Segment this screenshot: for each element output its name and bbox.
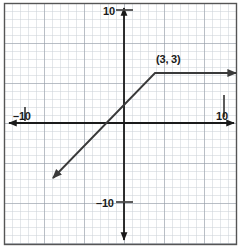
y-axis-label-positive-10: 10 [103,5,115,17]
coordinate-grid-figure: 10 –10 –10 10 (3, 3) [0,0,240,250]
major-gridlines [4,3,237,245]
coordinate-plane-svg [0,0,240,250]
y-axis-label-negative-10: –10 [96,197,114,209]
vertex-point-label: (3, 3) [156,53,180,65]
x-axis-label-positive-10: 10 [216,110,228,122]
x-axis-label-negative-10: –10 [13,110,31,122]
